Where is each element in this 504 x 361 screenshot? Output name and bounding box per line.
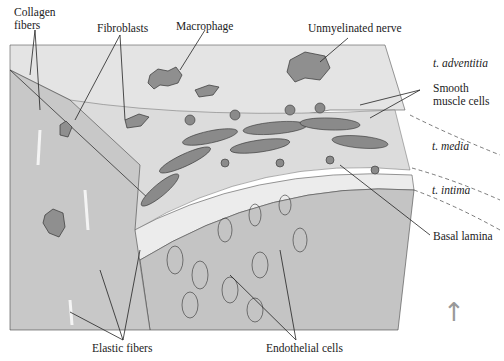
label-endothelial-cells: Endothelial cells — [266, 342, 343, 355]
label-basal-lamina: Basal lamina — [433, 230, 493, 243]
label-tunica-adventitia: t. adventitia — [433, 57, 488, 70]
label-elastic-fibers: Elastic fibers — [92, 342, 152, 355]
label-tunica-media: t. media — [432, 140, 469, 153]
label-smooth-muscle-cells: Smooth muscle cells — [433, 82, 490, 108]
label-tunica-intima: t. intima — [432, 184, 470, 197]
artery-drawing — [0, 0, 504, 361]
artery-illustration: Collagen fibers Fibroblasts Macrophage U… — [0, 0, 504, 361]
label-fibroblasts: Fibroblasts — [97, 22, 148, 35]
label-unmyelinated-nerve: Unmyelinated nerve — [308, 22, 402, 35]
up-arrow-icon: ↑ — [443, 297, 465, 327]
label-collagen-fibers: Collagen fibers — [14, 6, 56, 32]
label-macrophage: Macrophage — [176, 20, 233, 33]
